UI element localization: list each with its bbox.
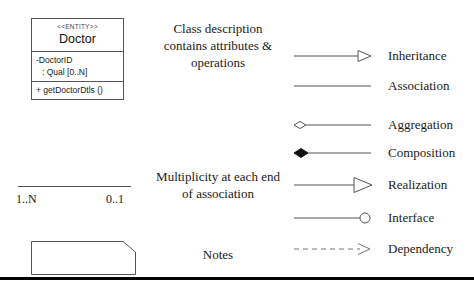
legend-row-dependency: Dependency — [292, 238, 474, 260]
legend-label-composition: Composition — [388, 144, 455, 162]
legend-row-composition: Composition — [292, 142, 474, 164]
legend-row-inheritance: Inheritance — [292, 45, 474, 67]
hollow-circle-line-icon — [292, 207, 380, 229]
association-line — [18, 186, 131, 187]
class-attribute: -DoctorID — [36, 54, 119, 66]
uml-legend-diagram: <<ENTITY>> Doctor -DoctorID : Qual [0..N… — [0, 0, 474, 289]
legend-row-realization: Realization — [292, 174, 474, 196]
legend-label-realization: Realization — [388, 176, 447, 194]
class-description-text: Class description contains attributes & … — [152, 20, 284, 71]
class-attributes-compartment: -DoctorID : Qual [0..N] — [32, 51, 123, 81]
legend-row-aggregation: Aggregation — [292, 114, 474, 136]
multiplicity-right-label: 0..1 — [106, 192, 124, 207]
legend-label-aggregation: Aggregation — [388, 116, 453, 134]
legend-label-dependency: Dependency — [388, 240, 453, 258]
hollow-triangle-arrow-icon — [292, 45, 380, 67]
multiplicity-description-text: Multiplicity at each end of association — [152, 168, 284, 202]
notes-description-text: Notes — [152, 246, 284, 263]
legend-label-association: Association — [388, 77, 449, 95]
class-box-doctor: <<ENTITY>> Doctor -DoctorID : Qual [0..N… — [31, 18, 124, 100]
legend-label-interface: Interface — [388, 209, 434, 227]
class-operation: + getDoctorDtls () — [36, 84, 119, 96]
plain-line-icon — [292, 75, 380, 97]
class-attribute: : Qual [0..N] — [36, 66, 119, 78]
class-header-compartment: <<ENTITY>> Doctor — [32, 19, 123, 51]
bottom-divider — [0, 277, 474, 280]
dashed-open-arrow-icon — [292, 238, 380, 260]
legend-row-association: Association — [292, 75, 474, 97]
filled-diamond-line-icon — [292, 142, 380, 164]
large-hollow-triangle-arrow-icon — [292, 174, 380, 196]
legend-label-inheritance: Inheritance — [388, 47, 446, 65]
multiplicity-left-label: 1..N — [16, 192, 37, 207]
legend-row-interface: Interface — [292, 207, 474, 229]
class-stereotype: <<ENTITY>> — [36, 22, 119, 31]
class-name: Doctor — [36, 31, 119, 47]
hollow-diamond-line-icon — [292, 114, 380, 136]
class-operations-compartment: + getDoctorDtls () — [32, 81, 123, 99]
note-shape — [31, 241, 136, 275]
